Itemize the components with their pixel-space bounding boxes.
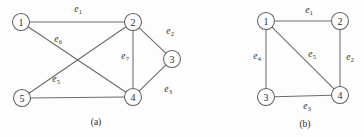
edge-label-base: e [305, 5, 309, 15]
edge-label-base: e [121, 51, 125, 61]
graph-vertex-b2: 2 [332, 13, 349, 30]
graph-vertex-a2: 2 [125, 14, 142, 31]
edge-label-be5: e5 [308, 50, 316, 60]
edge-label-e5: e5 [52, 75, 60, 85]
edge-label-subscript: 6 [59, 38, 62, 45]
vertex-label: 1 [264, 16, 269, 27]
edge-label-base: e [166, 26, 170, 36]
edge-label-e7: e7 [121, 52, 129, 62]
graph-vertex-a3: 3 [164, 51, 181, 68]
edge-label-be1: e1 [305, 6, 313, 16]
edges-layer [28, 21, 340, 98]
edge-label-subscript: 2 [351, 56, 354, 63]
vertex-label: 4 [338, 90, 343, 101]
edge-label-subscript: 5 [57, 78, 60, 85]
graph-vertex-a4: 4 [125, 89, 142, 106]
edge-label-subscript: 4 [258, 55, 261, 62]
vertex-label: 5 [20, 93, 25, 104]
graph-vertex-b4: 4 [332, 87, 349, 104]
edge-label-subscript: 3 [169, 88, 172, 95]
graph-vertex-a1: 1 [13, 14, 30, 31]
graph-vertex-b3: 3 [258, 89, 275, 106]
edge-label-subscript: 2 [171, 30, 174, 37]
edge-label-e3: e3 [164, 85, 172, 95]
graph-edge-be5 [272, 27, 334, 89]
vertex-label: 2 [338, 16, 343, 27]
edge-label-subscript: 1 [310, 9, 313, 16]
edge-label-base: e [346, 52, 350, 62]
graph-edge-be3 [275, 95, 332, 97]
edge-label-base: e [52, 74, 56, 84]
edge-label-e1: e1 [74, 5, 82, 15]
edge-label-subscript: 7 [126, 55, 129, 62]
vertex-label: 3 [264, 92, 269, 103]
vertices-layer: 123451234 [13, 13, 349, 107]
graph-vertex-a5: 5 [14, 90, 31, 107]
edge-label-subscript: 1 [79, 8, 82, 15]
graph-edge-e2 [139, 28, 166, 53]
edge-label-subscript: 3 [308, 105, 311, 112]
vertex-label: 4 [131, 92, 136, 103]
vertex-label: 2 [131, 17, 136, 28]
graph-edge-e8 [31, 97, 125, 98]
panel-caption-panel-a: (a) [91, 117, 102, 127]
graph-vertex-b1: 1 [258, 13, 275, 30]
graph-canvas: 123451234 [0, 0, 364, 137]
edge-label-be4: e4 [253, 52, 261, 62]
edge-label-base: e [253, 51, 257, 61]
edge-label-e2: e2 [166, 27, 174, 37]
vertex-label: 3 [170, 54, 175, 65]
edge-label-subscript: 5 [313, 53, 316, 60]
vertex-label: 1 [19, 17, 24, 28]
edge-label-base: e [54, 34, 58, 44]
panel-caption-panel-b: (b) [299, 119, 310, 129]
graph-figure: 123451234 e1e2e3e7e6e5e1e2e3e4e5 (a)(b) [0, 0, 364, 137]
edge-label-base: e [164, 84, 168, 94]
edge-label-base: e [308, 49, 312, 59]
edge-label-base: e [303, 101, 307, 111]
edge-label-be2: e2 [346, 53, 354, 63]
edge-label-base: e [74, 4, 78, 14]
edge-label-be3: e3 [303, 102, 311, 112]
edge-label-e6: e6 [54, 35, 62, 45]
graph-edge-e3 [139, 65, 166, 91]
